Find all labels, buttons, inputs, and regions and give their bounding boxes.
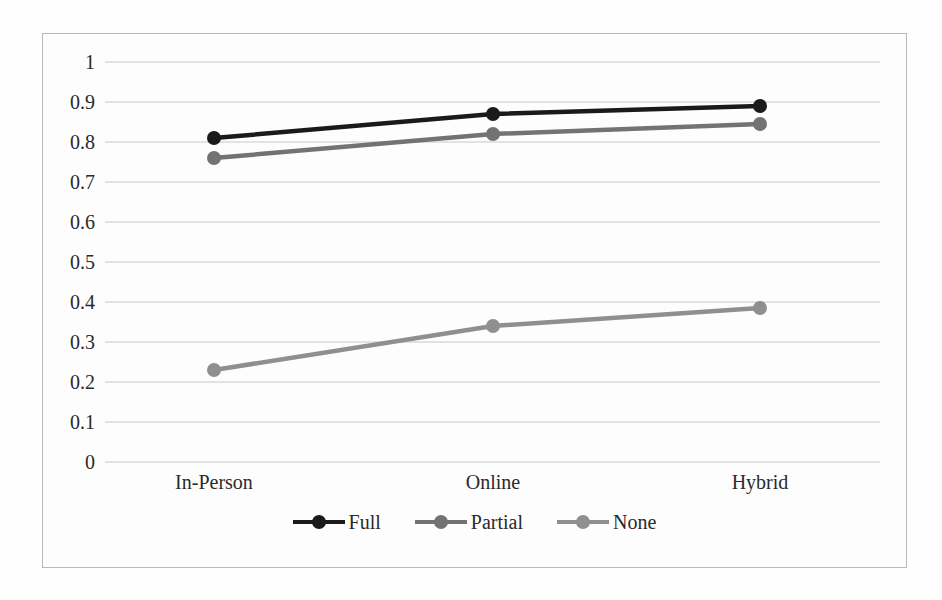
data-point-marker [486,319,500,333]
legend-label: Partial [471,512,523,532]
legend-label: None [613,512,656,532]
y-axis-tick-label: 1 [85,52,95,72]
legend-marker-icon [312,515,326,529]
data-point-marker [207,131,221,145]
y-axis-tick-label: 0.3 [70,332,95,352]
series-line [214,308,760,370]
legend-swatch-icon [557,515,609,529]
x-axis-tick-label: Online [403,472,583,492]
y-axis-tick-label: 0.4 [70,292,95,312]
legend-label: Full [349,512,381,532]
y-axis-tick-label: 0.8 [70,132,95,152]
legend-marker-icon [434,515,448,529]
chart-legend: FullPartialNone [42,512,907,532]
series-partial [207,117,767,165]
data-point-marker [207,363,221,377]
data-point-marker [207,151,221,165]
series-none [207,301,767,377]
x-axis-tick-label: In-Person [124,472,304,492]
series-layer [207,99,767,377]
chart-figure: 10.90.80.70.60.50.40.30.20.10 In-PersonO… [0,0,942,600]
y-axis-tick-label: 0.1 [70,412,95,432]
y-axis-tick-label: 0.9 [70,92,95,112]
y-axis-tick-label: 0.2 [70,372,95,392]
legend-item-none[interactable]: None [557,512,656,532]
data-point-marker [753,301,767,315]
y-axis-tick-label: 0.5 [70,252,95,272]
y-axis-tick-label: 0.6 [70,212,95,232]
chart-plot-area [0,0,942,600]
y-axis-tick-label: 0.7 [70,172,95,192]
data-point-marker [486,107,500,121]
legend-marker-icon [576,515,590,529]
y-axis-tick-label: 0 [85,452,95,472]
series-full [207,99,767,145]
legend-swatch-icon [293,515,345,529]
x-axis-tick-label: Hybrid [670,472,850,492]
data-point-marker [753,99,767,113]
legend-item-partial[interactable]: Partial [415,512,523,532]
legend-swatch-icon [415,515,467,529]
data-point-marker [753,117,767,131]
legend-item-full[interactable]: Full [293,512,381,532]
data-point-marker [486,127,500,141]
